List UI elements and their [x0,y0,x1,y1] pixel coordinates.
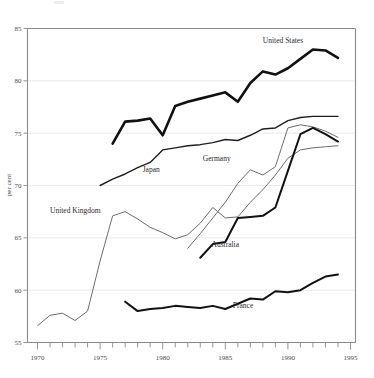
chart-figure: 55606570758085 197019751980198519901995 … [0,0,374,378]
y-axis-title: per cent [5,174,13,196]
series-label-japan: Japan [143,165,160,174]
y-tick-label: 75 [15,130,23,138]
series-label-germany: Germany [203,154,231,163]
y-tick-label: 55 [15,339,23,347]
x-tick-label: 1995 [343,354,358,362]
series-label-australia: Australia [212,240,240,249]
x-tick-label: 1970 [31,354,46,362]
y-tick-label: 65 [15,234,23,242]
gridlines [28,81,356,290]
x-tick-label: 1980 [156,354,171,362]
y-tick-label: 80 [15,77,23,85]
series-line-united-states [113,49,338,143]
series-line-japan [100,116,338,185]
x-tick-label: 1975 [93,354,108,362]
series-label-united-kingdom: United Kingdom [50,206,101,215]
y-tick-label: 85 [15,25,23,33]
y-tick-label: 60 [15,287,23,295]
x-tick-label: 1990 [281,354,296,362]
series-label-france: France [233,301,254,310]
y-tick-labels: 55606570758085 [15,25,23,347]
axis-ticks [24,29,351,350]
y-tick-label: 70 [15,182,23,190]
series-line-united-kingdom [38,146,338,326]
x-tick-labels: 197019751980198519901995 [31,354,358,362]
data-series [38,49,338,325]
x-tick-label: 1985 [218,354,233,362]
series-label-united-states: United States [263,36,303,45]
series-line-france [125,274,338,311]
top-crop-artifact [54,1,64,4]
line-chart: 55606570758085 197019751980198519901995 … [0,0,374,378]
